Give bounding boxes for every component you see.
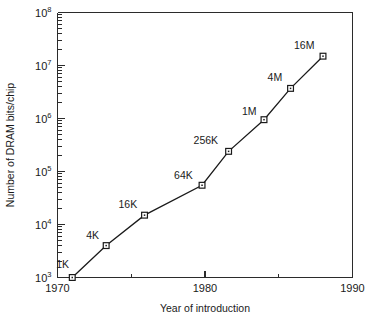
data-point-label: 1K — [56, 258, 69, 270]
data-point-center — [144, 214, 146, 216]
data-point-labels: 1K4K16K64K256K1M4M16M — [56, 39, 314, 269]
series-line — [72, 56, 323, 277]
data-point-label: 16M — [294, 39, 314, 51]
y-tick-label: 105 — [35, 164, 51, 178]
dram-scaling-chart: 103104105106107108 197019801990 1K4K16K6… — [0, 0, 365, 318]
data-point-center — [105, 245, 107, 247]
data-series — [69, 53, 326, 280]
y-axis-tick-labels: 103104105106107108 — [35, 5, 51, 284]
x-axis-ticks — [131, 271, 279, 278]
y-axis-major-ticks — [58, 13, 65, 278]
data-point-label: 16K — [119, 198, 138, 210]
data-point-label: 4K — [86, 229, 99, 241]
data-point-label: 64K — [174, 169, 193, 181]
chart-canvas: 103104105106107108 197019801990 1K4K16K6… — [0, 0, 365, 318]
data-point-center — [72, 277, 74, 279]
y-tick-label: 107 — [35, 58, 51, 72]
data-point-label: 4M — [268, 71, 283, 83]
data-point-center — [201, 185, 203, 187]
x-tick-label: 1970 — [45, 282, 69, 294]
data-point-label: 1M — [242, 105, 257, 117]
x-axis-tick-labels: 197019801990 — [45, 282, 364, 294]
data-point-center — [228, 151, 230, 153]
x-tick-label: 1990 — [340, 282, 364, 294]
data-point-center — [322, 55, 324, 57]
x-axis-title: Year of introduction — [160, 302, 250, 314]
y-tick-label: 108 — [35, 5, 51, 19]
y-tick-label: 106 — [35, 111, 51, 125]
data-point-label: 256K — [194, 134, 219, 146]
y-axis-title: Number of DRAM bits/chip — [4, 83, 16, 207]
x-tick-label: 1980 — [193, 282, 217, 294]
y-tick-label: 104 — [35, 217, 51, 231]
data-point-center — [263, 119, 265, 121]
data-point-center — [290, 88, 292, 90]
